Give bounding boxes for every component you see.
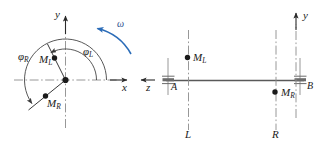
mass-dot-MR-side: [272, 89, 277, 94]
mass-ML-side-subscript: L: [202, 56, 206, 65]
bearing-B-label: B: [307, 81, 313, 91]
mass-ML-symbol: M: [39, 53, 48, 65]
right-mass-ML-label: ML: [193, 52, 206, 64]
plane-R-label: R: [272, 129, 279, 140]
mass-MR-side-symbol: M: [281, 86, 290, 98]
left-y-axis-label: y: [55, 9, 60, 20]
mass-MR-subscript: R: [56, 102, 61, 111]
left-mass-MR-label: MR: [47, 98, 61, 110]
left-z-axis-label: z: [146, 82, 150, 93]
mass-ML-side-symbol: M: [193, 51, 202, 63]
left-x-axis-label: x: [122, 82, 127, 93]
right-mass-MR-label: MR: [281, 87, 295, 99]
left-mass-ML-label: ML: [39, 54, 52, 66]
omega-arrow: [98, 29, 132, 55]
right-y-axis-label: y: [303, 10, 308, 21]
mass-dot-ML: [52, 55, 57, 60]
figure-canvas: [0, 0, 325, 148]
mass-dot-ML-side: [185, 55, 190, 60]
mass-MR-symbol: M: [47, 97, 56, 109]
phi-R-label: φR: [18, 51, 29, 63]
left-view-group: [14, 16, 155, 128]
mass-ML-subscript: L: [48, 58, 52, 67]
phi-L-subscript: L: [89, 50, 93, 59]
balancing-figure: y x z φR φL ML MR ω y A B ML MR L R: [0, 0, 325, 148]
plane-L-label: L: [185, 129, 191, 140]
phi-L-label: φL: [83, 46, 93, 58]
omega-label: ω: [117, 19, 124, 29]
mass-MR-side-subscript: R: [290, 91, 295, 100]
phi-R-subscript: R: [24, 55, 29, 64]
bearing-A-label: A: [171, 82, 177, 92]
right-view-group: [162, 13, 307, 130]
origin-dot: [62, 77, 68, 83]
